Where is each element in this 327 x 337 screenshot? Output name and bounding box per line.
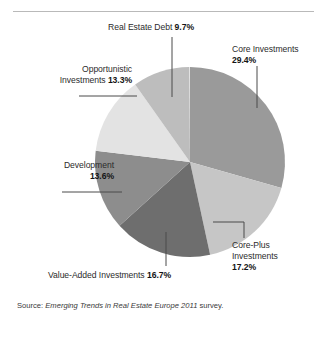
slice-label-value-added-name: Value-Added Investments — [48, 270, 145, 280]
slice-label-development: Development 13.6% — [14, 160, 114, 182]
source-note: Source: Emerging Trends in Real Estate E… — [17, 300, 223, 311]
slice-label-development-name: Development — [14, 160, 114, 171]
slice-label-core-plus: Core-Plus Investments 17.2% — [232, 240, 324, 274]
slice-label-opportunistic-name-2: Investments — [60, 75, 106, 85]
slice-label-real-estate-debt: Real Estate Debt 9.7% — [62, 22, 194, 33]
pie-chart-figure: Real Estate Debt 9.7% Core Investments 2… — [0, 0, 327, 337]
source-prefix: Source: — [17, 301, 45, 310]
slice-label-core-plus-name-1: Core-Plus — [232, 240, 324, 251]
slice-label-value-added-pct: 16.7% — [147, 270, 171, 280]
slice-label-core-name: Core Investments — [232, 44, 324, 55]
slice-label-real-estate-debt-name: Real Estate Debt — [108, 22, 172, 32]
slice-label-opportunistic: Opportunistic Investments 13.3% — [14, 64, 132, 86]
source-title: Emerging Trends in Real Estate Europe 20… — [45, 301, 197, 310]
source-suffix: survey. — [197, 301, 223, 310]
slice-label-value-added: Value-Added Investments 16.7% — [48, 270, 200, 281]
slice-label-opportunistic-name-1: Opportunistic — [14, 64, 132, 75]
slice-label-real-estate-debt-pct: 9.7% — [175, 22, 194, 32]
slice-label-opportunistic-pct: 13.3% — [108, 75, 132, 85]
slice-label-core: Core Investments 29.4% — [232, 44, 324, 66]
slice-label-development-pct: 13.6% — [14, 171, 114, 182]
slice-label-core-plus-pct: 17.2% — [232, 262, 324, 273]
slice-label-core-plus-name-2: Investments — [232, 251, 324, 262]
slice-label-core-pct: 29.4% — [232, 55, 324, 66]
